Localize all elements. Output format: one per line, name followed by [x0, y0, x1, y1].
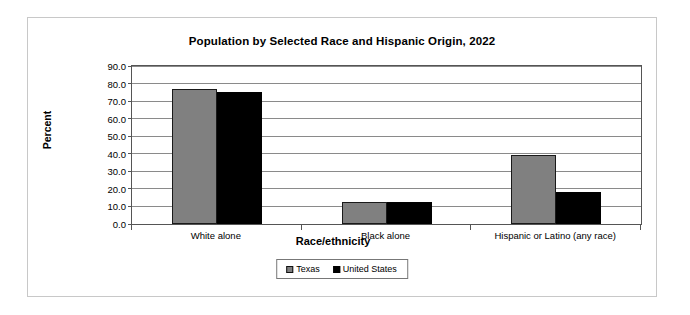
- y-axis-tick-label: 30.0: [108, 166, 127, 177]
- y-axis-tick-mark: [128, 136, 132, 137]
- chart-title: Population by Selected Race and Hispanic…: [28, 35, 656, 47]
- y-axis-tick-mark: [128, 118, 132, 119]
- bar-texas: [342, 202, 387, 224]
- chart-legend: TexasUnited States: [276, 259, 408, 279]
- plot-area: 0.010.020.030.040.050.060.070.080.090.0: [131, 65, 642, 225]
- gridline: [132, 66, 641, 67]
- y-axis-tick-label: 90.0: [108, 61, 127, 72]
- x-axis-separator-tick: [131, 225, 132, 230]
- x-axis-separator-tick: [640, 225, 641, 230]
- gridline: [132, 83, 641, 84]
- x-axis-separator-tick: [301, 225, 302, 230]
- y-axis-tick-label: 20.0: [108, 183, 127, 194]
- y-axis-title: Percent: [41, 85, 53, 175]
- y-axis-tick-mark: [128, 101, 132, 102]
- y-axis-tick-label: 70.0: [108, 96, 127, 107]
- bar-united-states: [387, 202, 432, 224]
- y-axis-tick-mark: [128, 83, 132, 84]
- x-axis-title: Race/ethnicity: [123, 235, 543, 247]
- chart-figure: Population by Selected Race and Hispanic…: [27, 17, 657, 297]
- y-axis-tick-label: 10.0: [108, 201, 127, 212]
- bar-texas: [172, 89, 217, 224]
- legend-label: United States: [343, 264, 397, 274]
- y-axis-tick-label: 80.0: [108, 78, 127, 89]
- y-axis-tick-label: 50.0: [108, 131, 127, 142]
- legend-label: Texas: [296, 264, 320, 274]
- y-axis-tick-mark: [128, 188, 132, 189]
- y-axis-tick-mark: [128, 153, 132, 154]
- y-axis-tick-mark: [128, 66, 132, 67]
- x-axis-separator-tick: [470, 225, 471, 230]
- legend-item-united-states: United States: [333, 264, 397, 274]
- bar-texas: [511, 155, 556, 224]
- legend-item-texas: Texas: [286, 264, 320, 274]
- y-axis-tick-label: 40.0: [108, 148, 127, 159]
- bar-united-states: [217, 92, 262, 224]
- y-axis-tick-label: 60.0: [108, 113, 127, 124]
- y-axis-tick-mark: [128, 206, 132, 207]
- bar-united-states: [556, 192, 601, 224]
- y-axis-tick-label: 0.0: [113, 219, 126, 230]
- legend-swatch-icon: [286, 266, 293, 273]
- legend-swatch-icon: [333, 266, 340, 273]
- y-axis-tick-mark: [128, 171, 132, 172]
